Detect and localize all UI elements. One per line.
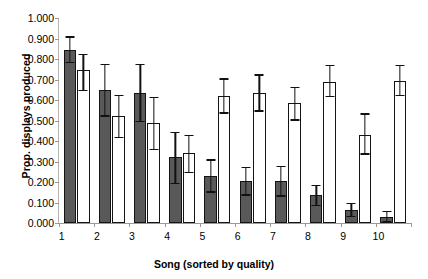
error-cap-lower-dark-song-5 <box>206 191 215 192</box>
error-bar-dark-song-1 <box>69 36 70 62</box>
bar-dark-song-1 <box>64 50 77 223</box>
x-tick-label-song-3: 3 <box>117 230 147 242</box>
error-cap-upper-light-song-7 <box>290 87 299 88</box>
error-cap-upper-light-song-6 <box>255 74 264 75</box>
x-tick-label-song-8: 8 <box>293 230 323 242</box>
error-cap-lower-light-song-9 <box>360 153 369 154</box>
error-bar-light-song-8 <box>329 65 330 96</box>
plot-area: 0.0000.1000.2000.3000.4000.5000.6000.700… <box>58 18 411 224</box>
x-tick-mark <box>270 223 271 227</box>
error-bar-dark-song-8 <box>316 185 317 204</box>
error-cap-lower-light-song-4 <box>184 172 193 173</box>
bar-group <box>235 18 270 223</box>
bar-group <box>376 18 411 223</box>
error-cap-upper-light-song-2 <box>114 95 123 96</box>
error-cap-lower-light-song-5 <box>220 112 229 113</box>
error-bar-light-song-6 <box>259 74 260 110</box>
error-cap-lower-dark-song-4 <box>171 183 180 184</box>
error-cap-lower-light-song-3 <box>149 149 158 150</box>
error-bar-light-song-4 <box>188 135 189 172</box>
error-cap-upper-dark-song-1 <box>65 36 74 37</box>
x-tick-label-song-4: 4 <box>152 230 182 242</box>
chart-figure: Prop. displays produced 0.0000.1000.2000… <box>0 0 428 279</box>
error-bar-dark-song-9 <box>351 203 352 216</box>
bar-group <box>165 18 200 223</box>
error-bar-dark-song-5 <box>210 159 211 191</box>
x-tick-mark <box>129 223 130 227</box>
bar-light-song-10 <box>394 81 407 223</box>
error-cap-lower-dark-song-2 <box>101 115 110 116</box>
x-tick-mark <box>200 223 201 227</box>
bar-light-song-8 <box>323 82 336 223</box>
error-cap-lower-light-song-8 <box>325 96 334 97</box>
bar-group <box>129 18 164 223</box>
bar-group <box>305 18 340 223</box>
x-tick-label-song-2: 2 <box>82 230 112 242</box>
error-cap-lower-dark-song-7 <box>277 195 286 196</box>
x-tick-label-song-9: 9 <box>328 230 358 242</box>
error-cap-upper-dark-song-9 <box>347 203 356 204</box>
x-tick-label-song-7: 7 <box>258 230 288 242</box>
bar-group <box>59 18 94 223</box>
x-tick-label-song-1: 1 <box>47 230 77 242</box>
error-cap-upper-light-song-3 <box>149 97 158 98</box>
x-tick-mark <box>235 223 236 227</box>
error-cap-upper-dark-song-6 <box>241 167 250 168</box>
error-cap-lower-dark-song-6 <box>241 194 250 195</box>
error-cap-upper-dark-song-3 <box>136 64 145 65</box>
error-bar-dark-song-2 <box>104 64 105 115</box>
x-tick-mark <box>341 223 342 227</box>
x-axis-label: Song (sorted by quality) <box>0 258 428 270</box>
error-cap-lower-light-song-6 <box>255 110 264 111</box>
error-bar-dark-song-7 <box>280 166 281 196</box>
x-tick-mark <box>59 223 60 227</box>
error-cap-upper-dark-song-7 <box>277 166 286 167</box>
error-cap-lower-light-song-10 <box>396 95 405 96</box>
error-bar-light-song-1 <box>83 54 84 90</box>
bar-group <box>341 18 376 223</box>
bar-light-song-5 <box>218 96 231 223</box>
bar-light-song-7 <box>288 103 301 223</box>
error-cap-upper-dark-song-4 <box>171 132 180 133</box>
error-cap-upper-light-song-9 <box>360 113 369 114</box>
error-cap-lower-light-song-7 <box>290 119 299 120</box>
error-bar-light-song-9 <box>364 113 365 153</box>
error-bar-dark-song-4 <box>175 132 176 183</box>
error-cap-upper-light-song-8 <box>325 65 334 66</box>
x-tick-mark <box>94 223 95 227</box>
bar-light-song-6 <box>253 93 266 223</box>
error-cap-upper-dark-song-10 <box>382 211 391 212</box>
error-bar-dark-song-10 <box>386 211 387 221</box>
error-cap-lower-light-song-2 <box>114 137 123 138</box>
x-tick-label-song-10: 10 <box>363 230 393 242</box>
error-cap-upper-dark-song-8 <box>312 185 321 186</box>
x-tick-mark <box>165 223 166 227</box>
error-bar-light-song-10 <box>399 65 400 95</box>
error-bar-light-song-2 <box>118 95 119 137</box>
error-cap-upper-dark-song-2 <box>101 64 110 65</box>
bar-group <box>200 18 235 223</box>
error-bar-light-song-5 <box>223 78 224 112</box>
error-bar-light-song-7 <box>294 87 295 120</box>
x-tick-mark <box>305 223 306 227</box>
error-cap-upper-dark-song-5 <box>206 159 215 160</box>
bar-group <box>94 18 129 223</box>
error-cap-upper-light-song-4 <box>184 135 193 136</box>
x-tick-label-song-5: 5 <box>187 230 217 242</box>
error-cap-lower-dark-song-9 <box>347 216 356 217</box>
error-cap-upper-light-song-10 <box>396 65 405 66</box>
error-cap-upper-light-song-5 <box>220 78 229 79</box>
error-cap-lower-dark-song-3 <box>136 121 145 122</box>
error-cap-lower-dark-song-10 <box>382 221 391 222</box>
error-bar-dark-song-3 <box>140 64 141 120</box>
bar-group <box>270 18 305 223</box>
error-bar-light-song-3 <box>153 97 154 149</box>
x-tick-mark <box>411 223 412 227</box>
error-cap-lower-dark-song-8 <box>312 205 321 206</box>
error-cap-upper-light-song-1 <box>79 54 88 55</box>
bar-light-song-1 <box>77 70 90 223</box>
error-cap-lower-dark-song-1 <box>65 62 74 63</box>
error-bar-dark-song-6 <box>245 167 246 195</box>
x-tick-mark <box>376 223 377 227</box>
error-cap-lower-light-song-1 <box>79 90 88 91</box>
